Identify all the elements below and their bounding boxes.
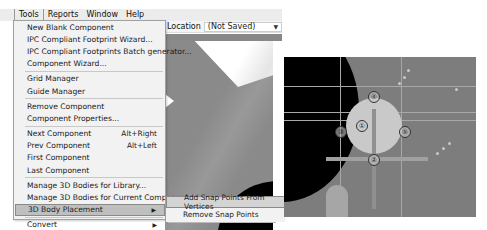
menu-item-ipc-footprint-wizard[interactable]: IPC Compliant Footprint Wizard... (15, 33, 165, 45)
menu-item-next-component[interactable]: Next Component Alt+Right (15, 128, 165, 140)
menu-separator (25, 98, 163, 99)
snap-point-dot (442, 147, 445, 150)
right-screenshot-3d-view[interactable]: ① ② ③ ④ ⑤ (284, 57, 476, 217)
menu-item-guide-manager[interactable]: Guide Manager (15, 85, 165, 97)
menu-item-label: IPC Compliant Footprints Batch generator… (27, 47, 192, 56)
submenu-arrow-icon: ▶ (152, 221, 157, 228)
submenu-arrow-icon: ▶ (151, 206, 156, 213)
guide-line (284, 86, 476, 87)
submenu-divider (168, 222, 276, 223)
menu-separator (25, 126, 163, 127)
menu-item-label: Grid Manager (27, 74, 79, 83)
left-screenshot: Tools Reports Window Help Location (Not … (0, 0, 275, 230)
chevron-down-icon: ▼ (273, 23, 278, 30)
cylinder-stub (326, 185, 348, 217)
snap-marker-2: ② (368, 154, 380, 166)
menu-item-label: New Blank Component (27, 23, 114, 32)
menu-item-label: Guide Manager (27, 87, 85, 96)
menu-item-first-component[interactable]: First Component (15, 152, 165, 164)
menu-item-label: Component Properties... (27, 114, 119, 123)
menu-item-ipc-footprints-batch[interactable]: IPC Compliant Footprints Batch generator… (15, 45, 165, 57)
menu-item-last-component[interactable]: Last Component (15, 164, 165, 176)
menu-item-label: Next Component (27, 129, 91, 138)
location-value: (Not Saved) (208, 22, 256, 31)
menu-item-label: Convert (27, 220, 57, 229)
menu-item-prev-component[interactable]: Prev Component Alt+Left (15, 140, 165, 152)
snap-point-dot (436, 152, 439, 155)
menu-item-label: Component Wizard... (27, 59, 107, 68)
menu-item-component-properties[interactable]: Component Properties... (15, 112, 165, 124)
snap-marker-4: ④ (368, 91, 380, 103)
menu-item-label: Manage 3D Bodies for Library... (27, 181, 146, 190)
menu-item-3d-body-placement[interactable]: 3D Body Placement ▶ (15, 204, 165, 216)
menu-item-manage-3d-bodies-library[interactable]: Manage 3D Bodies for Library... (15, 179, 165, 191)
tools-menu-dropdown: New Blank Component IPC Compliant Footpr… (13, 20, 166, 220)
3d-body-placement-submenu: Add Snap Points From Vertices Remove Sna… (165, 196, 285, 222)
menu-item-label: Remove Snap Points (183, 210, 259, 219)
location-dropdown[interactable]: (Not Saved) ▼ (204, 22, 282, 32)
menu-item-label: 3D Body Placement (28, 205, 103, 214)
menu-item-convert[interactable]: Convert ▶ (15, 219, 165, 230)
menu-item-shortcut: Alt+Right (121, 129, 157, 138)
menu-item-label: Last Component (27, 166, 89, 175)
snap-marker-3: ③ (335, 126, 347, 138)
viewport-header-bar (165, 34, 282, 41)
location-toolbar: Location (Not Saved) ▼ (165, 21, 282, 33)
menu-separator (25, 71, 163, 72)
menu-item-label: IPC Compliant Footprint Wizard... (27, 35, 153, 44)
location-label: Location (165, 22, 201, 31)
menu-item-remove-component[interactable]: Remove Component (15, 100, 165, 112)
menu-separator (25, 177, 163, 178)
menu-item-new-blank-component[interactable]: New Blank Component (15, 21, 165, 33)
menu-item-grid-manager[interactable]: Grid Manager (15, 73, 165, 85)
menu-separator (25, 217, 163, 218)
snap-marker-1: ① (356, 120, 368, 132)
snap-point-dot (403, 76, 406, 79)
snap-marker-5: ⑤ (399, 126, 411, 138)
menu-item-add-snap-points[interactable]: Add Snap Points From Vertices (166, 196, 285, 208)
menu-item-manage-3d-bodies-current[interactable]: Manage 3D Bodies for Current Component..… (15, 191, 165, 203)
menu-item-label: Prev Component (27, 141, 90, 150)
menu-item-component-wizard[interactable]: Component Wizard... (15, 58, 165, 70)
snap-point-dot (398, 82, 401, 85)
menu-item-label: First Component (27, 153, 89, 162)
snap-point-dot (455, 88, 458, 91)
menu-item-label: Add Snap Points From Vertices (184, 193, 284, 211)
snap-point-dot (448, 142, 451, 145)
menu-item-shortcut: Alt+Left (127, 141, 157, 150)
snap-point-dot (407, 69, 410, 72)
pointer-arrow-icon (165, 94, 174, 108)
menu-item-label: Remove Component (27, 102, 104, 111)
